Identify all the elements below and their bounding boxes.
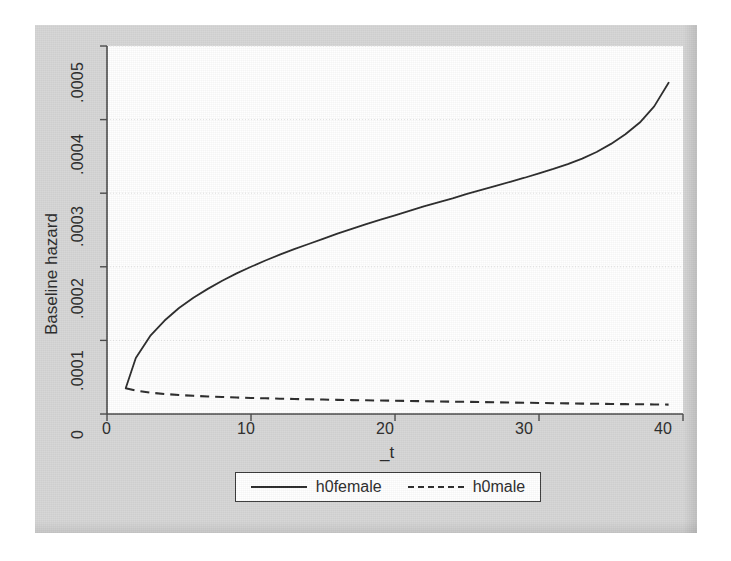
y-tick-label-0: 0	[69, 430, 87, 439]
tick-marks	[100, 46, 683, 421]
y-tick-label-00004: .0004	[69, 134, 87, 175]
series-line-h0male	[126, 388, 669, 404]
gridlines	[107, 46, 683, 414]
y-axis-title: Baseline hazard	[42, 213, 62, 335]
series-line-h0female	[126, 83, 669, 388]
legend-label-h0female: h0female	[316, 478, 382, 496]
legend-key-solid-line-icon	[251, 486, 307, 488]
y-tick-label-00003: .0003	[69, 206, 87, 247]
x-tick-label-20: 20	[376, 420, 394, 438]
x-tick-label-0: 0	[102, 420, 111, 438]
x-axis-title: _t	[380, 443, 394, 463]
x-tick-label-40: 40	[654, 420, 672, 438]
y-tick-label-00002: .0002	[69, 278, 87, 319]
axis-spines	[107, 46, 683, 414]
x-tick-label-10: 10	[237, 420, 255, 438]
chart-canvas	[35, 25, 697, 533]
legend-entry-h0female: h0female	[251, 478, 382, 496]
legend-label-h0male: h0male	[473, 478, 525, 496]
legend-entry-h0male: h0male	[408, 478, 525, 496]
y-tick-label-00005: .0005	[69, 62, 87, 103]
y-tick-label-00001: .0001	[69, 350, 87, 391]
chart-legend: h0female h0male	[235, 472, 541, 502]
legend-key-dashed-line-icon	[408, 486, 464, 488]
x-tick-label-30: 30	[515, 420, 533, 438]
figure-plate: 0 .0001 .0002 .0003 .0004 .0005 Baseline…	[35, 25, 697, 533]
